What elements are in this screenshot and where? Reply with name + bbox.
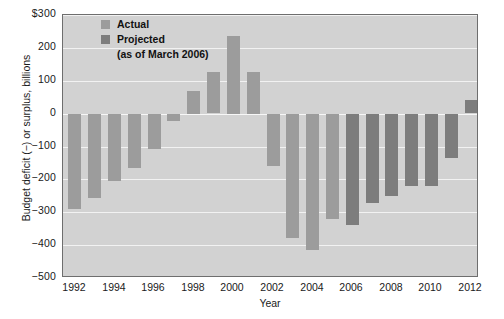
- x-axis-tick-2010: 2010: [410, 281, 450, 293]
- x-axis-tick-2012: 2012: [450, 281, 490, 293]
- bar-2009: [405, 114, 418, 186]
- legend-label-projected: Projected: [117, 33, 165, 46]
- bar-2005: [326, 114, 339, 219]
- x-axis-tick-2002: 2002: [252, 281, 292, 293]
- legend-item-actual: Actual: [101, 18, 209, 31]
- bar-1993: [88, 114, 101, 198]
- bar-1994: [108, 114, 121, 181]
- gridline: [63, 212, 477, 213]
- bar-1998: [187, 91, 200, 114]
- bar-1997: [167, 114, 180, 121]
- x-axis-tick-2004: 2004: [292, 281, 332, 293]
- legend-swatch-projected-icon: [101, 35, 110, 44]
- bar-2007: [366, 114, 379, 203]
- legend-swatch-actual-icon: [101, 20, 110, 29]
- budget-deficit-chart: $3002001000−100−200−300−400−500 Budget d…: [0, 0, 504, 319]
- chart-legend: Actual Projected (as of March 2006): [101, 18, 209, 61]
- x-axis-title: Year: [62, 297, 478, 309]
- bar-2003: [286, 114, 299, 238]
- legend-sublabel-projected: (as of March 2006): [117, 48, 209, 61]
- gridline: [63, 81, 477, 82]
- legend-item-projected: Projected: [101, 33, 209, 46]
- bar-2012: [465, 100, 478, 113]
- bar-2011: [445, 114, 458, 158]
- bar-1999: [207, 72, 220, 113]
- bar-1992: [68, 114, 81, 209]
- x-axis-tick-labels: 1992199419961998200020022004200620082010…: [0, 281, 504, 297]
- bar-2001: [247, 72, 260, 114]
- x-axis-tick-1998: 1998: [173, 281, 213, 293]
- bar-1996: [148, 114, 161, 149]
- bar-1995: [128, 114, 141, 168]
- bar-2006: [346, 114, 359, 225]
- y-axis-title: Budget deficit (−) or surplus, billions: [20, 13, 32, 263]
- bar-2000: [227, 36, 240, 114]
- gridline: [63, 15, 477, 16]
- x-axis-tick-1996: 1996: [133, 281, 173, 293]
- bar-2004: [306, 114, 319, 250]
- x-axis-tick-2008: 2008: [371, 281, 411, 293]
- x-axis-tick-2006: 2006: [331, 281, 371, 293]
- bar-2002: [267, 114, 280, 166]
- legend-label-actual: Actual: [117, 18, 149, 31]
- bar-2010: [425, 114, 438, 186]
- x-axis-tick-2000: 2000: [212, 281, 252, 293]
- bar-2008: [385, 114, 398, 196]
- x-axis-tick-1994: 1994: [94, 281, 134, 293]
- x-axis-tick-1992: 1992: [54, 281, 94, 293]
- gridline: [63, 245, 477, 246]
